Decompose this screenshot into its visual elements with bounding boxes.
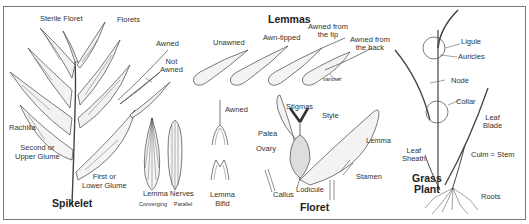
label-parallel: Parallel [174, 201, 192, 207]
label-roots: Roots [481, 193, 501, 201]
label-ovary: Ovary [256, 145, 276, 153]
label-second-glume: Second or Upper Glume [15, 143, 60, 161]
lemma-nerves-drawing [144, 118, 182, 190]
label-awned-from-back: Awned from the back [350, 36, 390, 52]
lemmas-title: Lemmas [268, 14, 311, 25]
label-lemma: Lemma [366, 137, 391, 145]
label-lodicule: Lodicule [296, 186, 324, 194]
label-auricles: Auricles [458, 53, 485, 61]
label-culm-stem: Culm = Stem [471, 151, 515, 159]
label-ligule: Ligule [461, 38, 481, 46]
label-awned-tip: Awned [225, 106, 248, 114]
label-converging: Converging [139, 201, 167, 207]
label-awned-from-tip: Awned from the tip [308, 23, 348, 39]
label-stigmas: Stigmas [286, 103, 313, 111]
spikelet-title: Spikelet [52, 198, 92, 209]
label-collar: Collar [456, 98, 476, 106]
label-sterile-floret: Sterile Floret [40, 15, 83, 23]
label-callus: Callus [273, 191, 294, 199]
label-first-glume: First or Lower Glume [82, 172, 127, 190]
label-style: Style [322, 112, 339, 120]
label-leaf-blade: Leaf Blade [483, 114, 502, 130]
label-not-awned: Not Awned [160, 58, 183, 74]
label-florets: Florets [117, 16, 140, 24]
label-stamen: Stamen [356, 173, 382, 181]
label-awned-spikelet: Awned [156, 40, 179, 48]
label-rachilla: Rachilla [9, 124, 36, 132]
label-lemma-nerves: Lemma Nerves [143, 190, 194, 198]
label-lemma-bifid: Lemma Bifid [210, 190, 235, 208]
grass-plant-title: Grass Plant [412, 173, 442, 195]
label-unawned: Unawned [213, 39, 245, 47]
label-various: various [323, 76, 341, 82]
label-awn-tipped: Awn-tipped [263, 34, 300, 42]
floret-title: Floret [300, 202, 329, 213]
label-palea: Palea [258, 130, 277, 138]
label-node: Node [451, 77, 469, 85]
label-leaf-sheath: Leaf Sheath [402, 147, 426, 163]
